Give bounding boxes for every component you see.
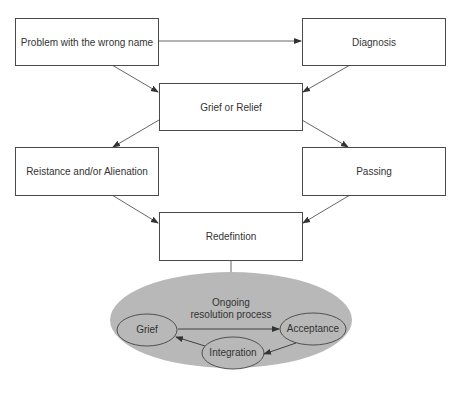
edge-grief-relief-resistance (113, 120, 159, 147)
node-redefinition-label: Redefintion (206, 231, 257, 242)
cycle-grief-label: Grief (117, 324, 177, 335)
cycle-title-line1: Ongoing (181, 297, 281, 308)
node-grief-relief-label: Grief or Relief (200, 102, 262, 113)
node-diagnosis: Diagnosis (302, 18, 446, 66)
edge-grief-relief-passing (302, 120, 348, 147)
edge-resistance-redefinition (112, 195, 158, 223)
edge-problem-grief-relief (112, 65, 158, 92)
node-problem-label: Problem with the wrong name (21, 37, 153, 48)
edge-diagnosis-grief-relief (303, 65, 350, 92)
node-resistance-label: Reistance and/or Alienation (26, 166, 148, 177)
node-problem: Problem with the wrong name (15, 18, 159, 66)
edge-passing-redefinition (303, 195, 350, 223)
node-passing: Passing (302, 147, 446, 196)
cycle-integration-label: Integration (202, 347, 264, 358)
node-diagnosis-label: Diagnosis (352, 37, 396, 48)
cycle-acceptance-label: Acceptance (280, 323, 346, 334)
node-grief-relief: Grief or Relief (159, 83, 303, 131)
node-passing-label: Passing (356, 166, 392, 177)
node-resistance: Reistance and/or Alienation (15, 147, 159, 196)
node-redefinition: Redefintion (159, 212, 303, 261)
cycle-title-line2: resolution process (181, 309, 281, 320)
